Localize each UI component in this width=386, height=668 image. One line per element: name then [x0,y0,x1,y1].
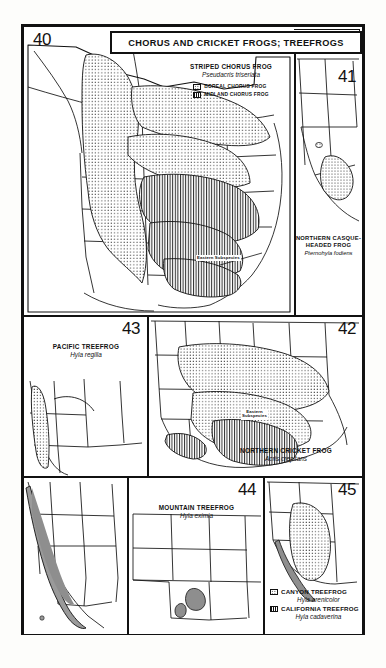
legend-common-name: STRIPED CHORUS FROG [170,63,292,71]
legend-entry-label: BOREAL CHORUS FROG [204,84,266,90]
map-northern-casque-headed-frog [295,53,362,316]
legend-scientific-name: Acris crepitans [211,455,361,463]
divider-horizontal-row2-row3 [24,476,362,478]
legend-entry-scientific-name: Hyla arenicolor [278,596,359,604]
legend-common-name: NORTHERN CRICKET FROG [211,447,361,455]
divider-vertical-43b-44 [127,478,129,634]
panel-number-41: 41 [338,67,356,87]
dotted-pattern-swatch-icon [193,84,201,90]
legend-entry-scientific-name: Hyla cadaverina [278,613,359,621]
legend-common-name: PACIFIC TREEFROG [24,343,148,351]
map-pacific-treefrog-upper [24,317,148,477]
divider-vertical-43-42 [147,317,149,478]
legend-entry-label: CANYON TREEFROG [281,588,347,596]
legend-entry-canyon-treefrog: CANYON TREEFROG [270,588,359,596]
legend-canyon-and-california-treefrog: CANYON TREEFROG Hyla arenicolor CALIFORN… [265,586,362,623]
legend-striped-chorus-frog: STRIPED CHORUS FROG Pseudacris triseriat… [170,63,292,102]
map-label-line2: Subspecies [242,414,267,419]
panel-45-canyon-and-california-treefrog: 45 CANYON TREEFROG Hyla arenicolor CALIF… [265,478,362,634]
divider-vertical-40-41 [294,51,296,316]
legend-scientific-name: Pseudacris triseriata [170,71,292,79]
panel-40-striped-chorus-frog: 40 STRIPED CHORUS FROG Pseudacris triser… [24,27,294,316]
legend-entry-label: CALIFORNIA TREEFROG [281,605,359,613]
legend-entry-midland: MIDLAND CHORUS FROG [193,92,268,98]
legend-entry-label: MIDLAND CHORUS FROG [204,92,268,98]
legend-pacific-treefrog: PACIFIC TREEFROG Hyla regilla [24,343,148,359]
legend-scientific-name: Pternohyla fodiens [295,250,362,257]
legend-scientific-name: Hyla eximia [129,512,264,520]
map-mountain-treefrog [129,478,264,634]
vertical-hatch-pattern-swatch-icon [193,92,201,98]
plate-frame: 40 STRIPED CHORUS FROG Pseudacris triser… [21,24,365,635]
legend-common-name: MOUNTAIN TREEFROG [129,504,264,512]
panel-number-45: 45 [338,480,356,500]
panel-44-mountain-treefrog: 44 MOUNTAIN TREEFROG Hyla eximia [129,478,264,634]
panel-number-43: 43 [122,319,140,339]
legend-northern-casque-headed-frog: NORTHERN CASQUE- HEADED FROG Pternohyla … [295,235,362,257]
map-label-eastern-subspecies: Eastern Subspecies [196,255,241,261]
panel-number-44: 44 [238,480,256,500]
divider-horizontal-row1-row2 [24,315,362,317]
legend-common-name-line1: NORTHERN CASQUE- [295,235,362,242]
legend-scientific-name: Hyla regilla [24,351,148,359]
legend-common-name-line2: HEADED FROG [295,242,362,249]
panel-number-40: 40 [33,30,51,50]
map-pacific-treefrog-range [24,478,128,634]
vertical-hatch-pattern-swatch-icon [270,606,278,612]
dotted-pattern-swatch-icon [270,589,278,595]
legend-entry-california-treefrog: CALIFORNIA TREEFROG [270,605,359,613]
panel-43-pacific-treefrog: 43 PACIFIC TREEFROG Hyla regilla [24,317,148,477]
map-label-eastern-subspecies: Eastern Subspecies [241,409,268,420]
panel-43-pacific-treefrog-map [24,478,128,634]
panel-41-northern-casque-headed-frog: 41 NORTHERN CASQUE- HEADED FROG Pternohy… [295,53,362,316]
page-canvas: 40 STRIPED CHORUS FROG Pseudacris triser… [0,0,386,668]
panel-42-northern-cricket-frog: 42 Eastern Subspecies NORTHERN CRICKET F… [149,317,362,477]
plate-title: CHORUS AND CRICKET FROGS; TREEFROGS [128,38,344,48]
legend-northern-cricket-frog: NORTHERN CRICKET FROG Acris crepitans [211,447,361,463]
legend-mountain-treefrog: MOUNTAIN TREEFROG Hyla eximia [129,504,264,520]
legend-entry-boreal: BOREAL CHORUS FROG [193,84,268,90]
plate-title-banner: CHORUS AND CRICKET FROGS; TREEFROGS [110,31,362,54]
panel-number-42: 42 [338,319,356,339]
